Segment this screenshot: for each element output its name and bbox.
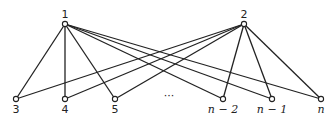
node-2	[241, 21, 246, 26]
node-n	[318, 96, 323, 101]
node-label-4: 4	[62, 103, 69, 116]
node-label-3: 3	[13, 103, 20, 116]
edge-1-3	[16, 24, 65, 99]
edges	[16, 24, 321, 99]
edge-2-n-1	[244, 24, 272, 99]
node-n-2	[220, 96, 225, 101]
node-label-n: n	[317, 103, 324, 116]
node-n-1	[269, 96, 274, 101]
node-label-5: 5	[112, 103, 119, 116]
node-1	[62, 21, 67, 26]
node-label-1: 1	[62, 8, 69, 21]
node-4	[62, 96, 67, 101]
bipartite-graph: 12345n − 2n − 1n ···	[0, 0, 334, 118]
ellipsis: ···	[164, 89, 175, 102]
edge-2-5	[115, 24, 244, 99]
node-label-2: 2	[241, 8, 248, 21]
edge-2-4	[65, 24, 244, 99]
edge-2-3	[16, 24, 244, 99]
node-3	[13, 96, 18, 101]
node-label-n-2: n − 2	[208, 103, 238, 116]
edge-1-n-2	[65, 24, 223, 99]
node-label-n-1: n − 1	[257, 103, 287, 116]
node-5	[112, 96, 117, 101]
